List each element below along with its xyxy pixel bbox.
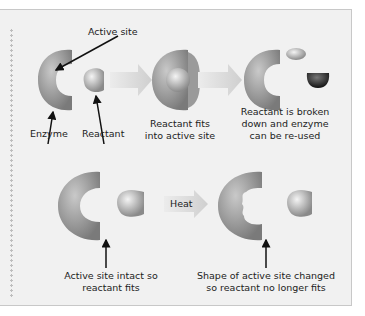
label-active-site: Active site: [88, 26, 138, 38]
label-reactant-broken: Reactant is broken down and enzyme can b…: [240, 106, 330, 142]
reactant-shape: [84, 68, 104, 92]
label-reactant: Reactant: [82, 128, 124, 140]
process-arrow-1: [110, 64, 152, 96]
label-active-site-intact: Active site intact so reactant fits: [56, 270, 166, 294]
enzyme-released: [244, 50, 280, 110]
enzyme-denatured: [218, 172, 262, 240]
enzyme-diagram: [0, 0, 365, 316]
label-reactant-fits: Reactant fits into active site: [140, 118, 220, 142]
product-fragment-dark: [307, 73, 329, 88]
label-active-site-changed: Shape of active site changed so reactant…: [196, 270, 336, 294]
enzyme-substrate-complex: [152, 50, 200, 110]
enzyme-intact: [58, 172, 100, 240]
process-arrow-2: [198, 64, 242, 96]
label-heat: Heat: [170, 198, 193, 210]
reactant-shape-2: [117, 190, 144, 217]
product-fragment-light: [286, 48, 306, 60]
enzyme-shape: [38, 50, 72, 110]
label-enzyme: Enzyme: [30, 128, 68, 140]
reactant-shape-3: [287, 190, 312, 217]
